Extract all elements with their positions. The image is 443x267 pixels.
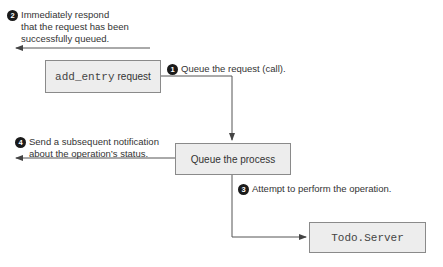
- step-4-note: 4Send a subsequent notification about th…: [15, 136, 159, 160]
- step-badge: 2: [7, 10, 18, 21]
- step-badge: 4: [15, 137, 26, 148]
- step-1-note: 1Queue the request (call).: [167, 63, 286, 75]
- step-2-note: 2Immediately respond that the request ha…: [7, 9, 129, 45]
- queue-arrow: [160, 76, 232, 140]
- server-code: Todo.Server: [331, 232, 404, 244]
- queue-process-box: Queue the process: [175, 143, 291, 175]
- step-badge: 1: [167, 64, 178, 75]
- queue-label: Queue the process: [191, 154, 276, 165]
- step-badge: 3: [238, 184, 249, 195]
- request-code: add_entry: [55, 71, 114, 83]
- request-label: request: [118, 71, 151, 82]
- step-3-note: 3Attempt to perform the operation.: [238, 183, 391, 195]
- add-entry-request-box: add_entry request: [45, 60, 161, 93]
- todo-server-box: Todo.Server: [309, 222, 426, 253]
